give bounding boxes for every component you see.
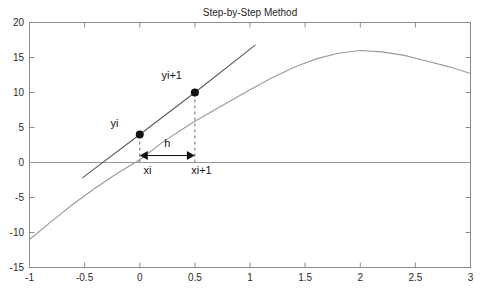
y-tick-label: -15 bbox=[10, 262, 25, 273]
x-tick-label: -1 bbox=[25, 272, 34, 283]
marker-yi bbox=[136, 131, 144, 139]
x-tick-label: 0.5 bbox=[188, 272, 202, 283]
yi-label: yi bbox=[110, 117, 118, 129]
xi-label: xi bbox=[143, 164, 151, 176]
x-tick-label: 0 bbox=[137, 272, 143, 283]
chart-title: Step-by-Step Method bbox=[203, 7, 298, 18]
chart-page: 20 15 10 5 0 -5 -10 -15 -1 -0.5 0 0.5 1 … bbox=[0, 0, 490, 299]
chart-background bbox=[0, 0, 490, 299]
y-tick-label: 10 bbox=[13, 87, 25, 98]
step-by-step-method-chart: 20 15 10 5 0 -5 -10 -15 -1 -0.5 0 0.5 1 … bbox=[0, 0, 490, 299]
y-tick-label: 15 bbox=[13, 52, 25, 63]
marker-yi-plus-1 bbox=[191, 89, 199, 97]
y-tick-label: -5 bbox=[15, 192, 24, 203]
yi-plus-1-label: yi+1 bbox=[161, 69, 182, 81]
x-tick-label: 1.5 bbox=[298, 272, 312, 283]
x-tick-label: 3 bbox=[468, 272, 474, 283]
x-tick-label: -0.5 bbox=[76, 272, 94, 283]
x-tick-label: 2.5 bbox=[408, 272, 422, 283]
x-tick-label: 2 bbox=[358, 272, 364, 283]
y-tick-label: 0 bbox=[18, 157, 24, 168]
y-tick-label: -10 bbox=[10, 227, 25, 238]
y-tick-label: 5 bbox=[18, 122, 24, 133]
y-tick-label: 20 bbox=[13, 17, 25, 28]
xi-plus-1-label: xi+1 bbox=[191, 164, 212, 176]
h-label: h bbox=[164, 137, 170, 149]
x-tick-label: 1 bbox=[247, 272, 253, 283]
